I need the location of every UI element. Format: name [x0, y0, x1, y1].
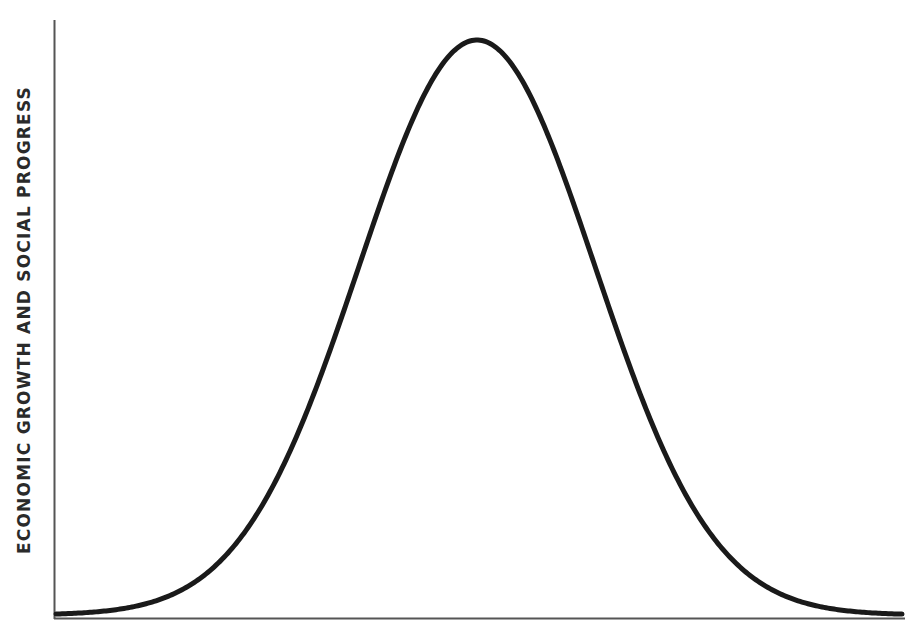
chart-svg [0, 0, 905, 640]
bell-curve-chart [0, 0, 905, 640]
y-axis-label: ECONOMIC GROWTH AND SOCIAL PROGRESS [14, 86, 34, 554]
bell-curve-line [56, 40, 902, 614]
